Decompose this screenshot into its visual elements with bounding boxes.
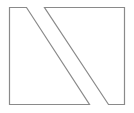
left-quadrilateral: [10, 8, 90, 105]
diagram-canvas: [0, 0, 134, 113]
right-quadrilateral: [45, 8, 125, 105]
square-split-diagram: [0, 0, 134, 113]
